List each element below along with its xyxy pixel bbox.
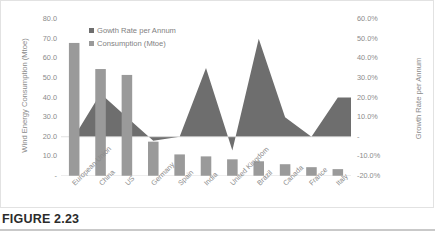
right-tick-label: 20.0% xyxy=(357,94,378,102)
figure-caption-block: FIGURE 2.23 xyxy=(0,212,435,231)
consumption-bar xyxy=(148,142,159,176)
chart-card: Gowth Rate per Annum Consumption (Mtoe) … xyxy=(0,0,434,208)
consumption-bar xyxy=(122,75,133,176)
left-tick-label: 40.0 xyxy=(43,94,57,102)
left-tick-label: 50.0 xyxy=(43,74,57,82)
left-axis-title: Wind Energy Consumption (Mtoe) xyxy=(20,26,29,166)
right-axis-ticks: 60.0%50.0%40.0%30.0%20.0%10.0%--10.0%-20… xyxy=(357,1,403,209)
right-tick-label: 40.0% xyxy=(357,54,378,62)
caption-divider xyxy=(0,229,435,231)
right-axis-title: Growth Rate per Annum xyxy=(414,29,423,169)
category-axis-labels: European UnionChinaUSGermanySpainIndiaUn… xyxy=(61,177,351,211)
right-tick-label: -20.0% xyxy=(357,172,380,180)
right-tick-label: 50.0% xyxy=(357,35,378,43)
right-tick-label: -10.0% xyxy=(357,152,380,160)
left-tick-label: 60.0 xyxy=(43,54,57,62)
left-tick-label: 10.0 xyxy=(43,152,57,160)
figure-caption: FIGURE 2.23 xyxy=(0,212,435,226)
left-tick-label: - xyxy=(55,172,57,180)
right-tick-label: 10.0% xyxy=(357,113,378,121)
right-tick-label: - xyxy=(357,133,359,141)
left-tick-label: 70.0 xyxy=(43,35,57,43)
right-tick-label: 30.0% xyxy=(357,74,378,82)
consumption-bar xyxy=(69,43,80,176)
left-tick-label: 80.0 xyxy=(43,15,57,23)
left-tick-label: 20.0 xyxy=(43,133,57,141)
figure-container: Gowth Rate per Annum Consumption (Mtoe) … xyxy=(0,0,435,250)
left-tick-label: 30.0 xyxy=(43,113,57,121)
right-tick-label: 60.0% xyxy=(357,15,378,23)
